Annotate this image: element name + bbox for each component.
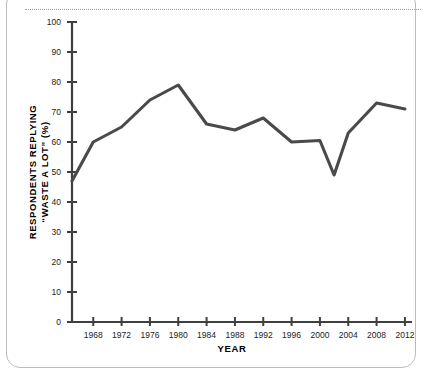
- y-tick-label: 30: [52, 227, 62, 237]
- y-tick-label: 10: [52, 287, 62, 297]
- x-tick-label: 2004: [339, 330, 358, 340]
- x-axis: 1968197219761980198419881992199620002004…: [72, 317, 415, 340]
- x-tick-label: 2000: [310, 330, 329, 340]
- x-axis-title: YEAR: [218, 343, 247, 354]
- y-tick-label: 20: [52, 257, 62, 267]
- x-tick-label: 2012: [395, 330, 414, 340]
- y-tick-label: 60: [52, 137, 62, 147]
- x-tick-label: 1984: [197, 330, 216, 340]
- x-tick-label: 1980: [169, 330, 188, 340]
- x-tick-label: 1972: [112, 330, 131, 340]
- y-tick-label: 100: [47, 17, 61, 27]
- y-axis-title-line2: “WASTE A LOT” (%): [39, 121, 50, 222]
- x-tick-label: 1968: [84, 330, 103, 340]
- x-tick-label: 1976: [140, 330, 159, 340]
- y-tick-label: 40: [52, 197, 62, 207]
- series-line-waste-a-lot: [72, 85, 405, 181]
- x-tick-label: 2008: [367, 330, 386, 340]
- y-tick-label: 50: [52, 167, 62, 177]
- x-tick-label: 1996: [282, 330, 301, 340]
- y-axis-title-line1: RESPONDENTS REPLYING: [27, 105, 38, 240]
- line-chart: 0102030405060708090100 19681972197619801…: [0, 0, 424, 378]
- x-tick-label: 1992: [254, 330, 273, 340]
- y-axis: 0102030405060708090100: [47, 17, 77, 327]
- chart-plot-area: 0102030405060708090100 19681972197619801…: [0, 0, 424, 378]
- data-series-group: [72, 85, 405, 181]
- x-tick-label: 1988: [225, 330, 244, 340]
- y-tick-label: 80: [52, 77, 62, 87]
- y-tick-label: 0: [56, 317, 61, 327]
- y-tick-label: 90: [52, 47, 62, 57]
- x-tick-labels: 1968197219761980198419881992199620002004…: [84, 330, 415, 340]
- y-tick-label: 70: [52, 107, 62, 117]
